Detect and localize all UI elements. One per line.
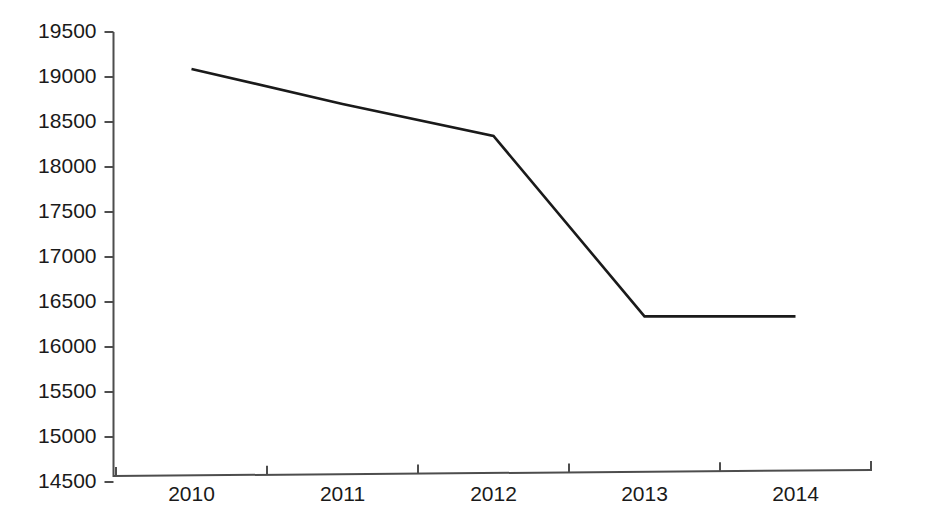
y-axis-tick-label: 19500 (38, 19, 96, 43)
line-chart: 1950019000185001800017500170001650016000… (0, 0, 931, 522)
y-axis-tick-label: 18500 (38, 109, 96, 133)
y-axis-tick-label: 14500 (38, 469, 96, 493)
y-axis-tick-label: 15000 (38, 424, 96, 448)
y-axis-tick-label: 16500 (38, 289, 96, 313)
y-axis-tick-label: 16000 (38, 334, 96, 358)
data-series-line (192, 69, 796, 317)
x-axis-tick-label: 2012 (434, 482, 554, 506)
y-axis-tick-label: 17500 (38, 199, 96, 223)
y-axis-tick-label: 18000 (38, 154, 96, 178)
x-axis-tick-label: 2013 (585, 482, 705, 506)
x-axis-tick-label: 2010 (132, 482, 252, 506)
x-axis-tick-label: 2011 (283, 482, 403, 506)
y-axis-ticks (105, 32, 114, 482)
y-axis-tick-label: 19000 (38, 64, 96, 88)
x-axis-tick-label: 2014 (736, 482, 856, 506)
axis-lines (113, 32, 872, 477)
chart-plot-area (0, 0, 931, 522)
x-axis-line (113, 470, 872, 476)
y-axis-tick-label: 15500 (38, 379, 96, 403)
y-axis-tick-label: 17000 (38, 244, 96, 268)
